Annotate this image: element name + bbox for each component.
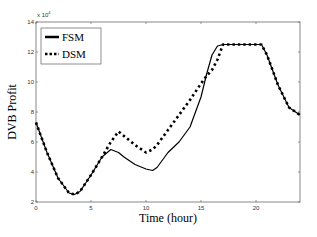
x-axis-label: Time (hour) xyxy=(139,211,197,225)
x-tick-label: 20 xyxy=(253,205,260,211)
legend-dsm-label: DSM xyxy=(62,48,86,60)
y-axis-label: DVB Profit xyxy=(5,84,19,140)
line-chart: 051015202468101214 Time (hour) DVB Profi… xyxy=(0,0,317,237)
y-tick-label: 8 xyxy=(31,109,35,115)
x-tick-label: 5 xyxy=(89,205,93,211)
x-tick-label: 0 xyxy=(34,205,38,211)
y-tick-label: 4 xyxy=(31,169,35,175)
series-fsm-line xyxy=(36,45,300,195)
y-exponent-label: x 104 xyxy=(37,10,51,18)
x-tick-label: 15 xyxy=(198,205,205,211)
y-tick-label: 6 xyxy=(31,139,35,145)
legend-fsm-label: FSM xyxy=(62,31,84,43)
series-group xyxy=(36,45,300,195)
series-dsm-line xyxy=(36,45,300,195)
y-tick-label: 12 xyxy=(27,49,34,55)
y-tick-label: 14 xyxy=(27,19,34,25)
y-tick-label: 10 xyxy=(27,79,34,85)
legend: FSM DSM xyxy=(41,28,101,64)
